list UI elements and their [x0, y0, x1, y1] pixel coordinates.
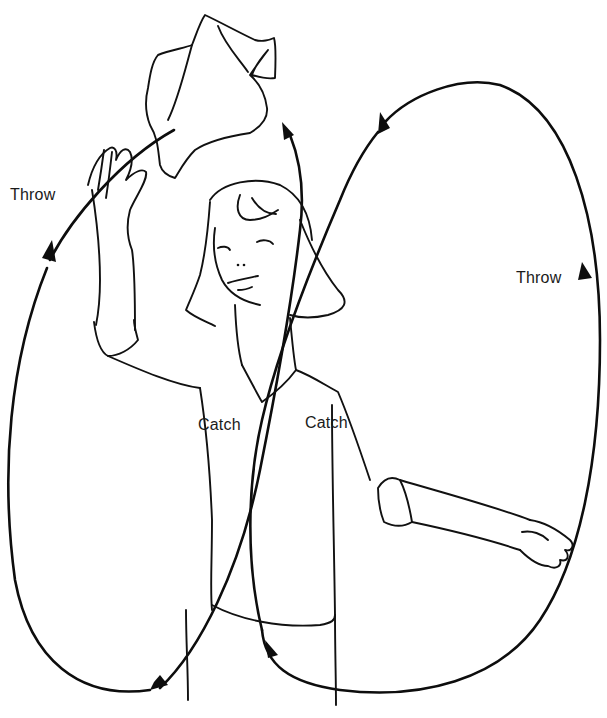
catch-label-left: Catch — [198, 416, 241, 434]
throw-label-right: Throw — [516, 269, 561, 287]
arrow-down-icon — [378, 112, 390, 134]
arrow-up-icon — [42, 240, 56, 262]
right-loop-path — [250, 82, 600, 692]
juggling-illustration — [0, 0, 607, 718]
arrow-up-icon — [578, 262, 592, 280]
catch-label-right: Catch — [305, 414, 348, 432]
arrow-down-icon — [265, 640, 278, 658]
scarf-icon — [146, 15, 276, 178]
throw-label-left: Throw — [10, 186, 55, 204]
